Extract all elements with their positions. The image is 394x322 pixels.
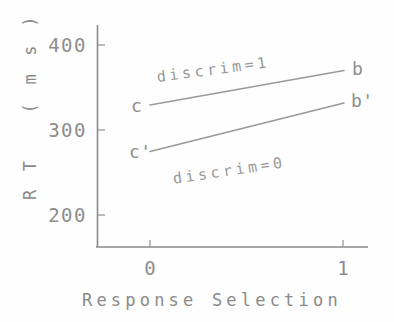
endpoint-label-b: b bbox=[352, 60, 363, 78]
x-tick-label-0: 0 bbox=[137, 259, 163, 278]
y-tick-label-200: 200 bbox=[25, 206, 87, 225]
endpoint-label-b-prime: b' bbox=[351, 92, 374, 110]
chart-figure: 400 300 200 0 1 R T ( m s ) Response Sel… bbox=[0, 0, 394, 322]
series-line-discrim0 bbox=[150, 103, 344, 152]
x-axis-title: Response Selection bbox=[82, 292, 342, 309]
endpoint-label-c: c bbox=[131, 97, 142, 115]
endpoint-label-c-prime: c' bbox=[129, 143, 152, 161]
y-axis-title: R T ( m s ) bbox=[22, 12, 39, 200]
x-tick-label-1: 1 bbox=[330, 259, 356, 278]
